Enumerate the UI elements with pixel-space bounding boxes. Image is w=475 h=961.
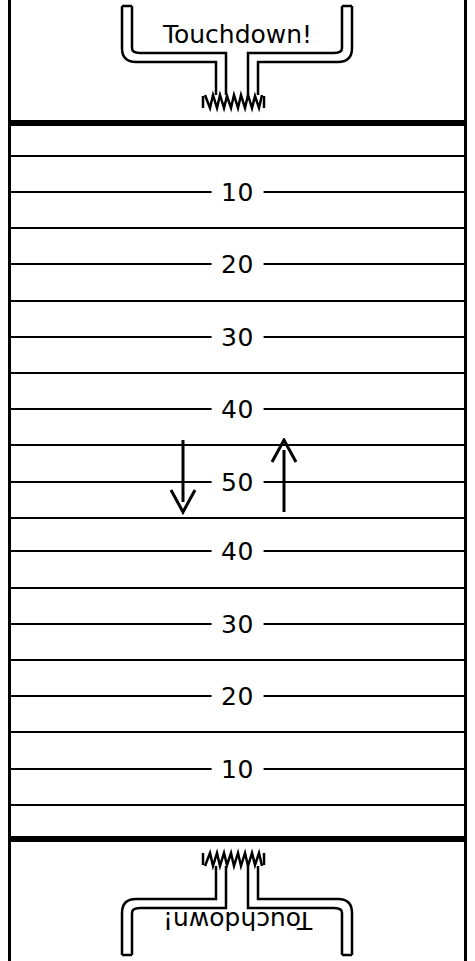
yard-number: 10 <box>211 180 264 205</box>
down-arrow-icon <box>165 438 201 516</box>
yard-number: 40 <box>211 539 264 564</box>
yard-number-midfield: 50 <box>211 470 264 495</box>
yard-line <box>8 731 467 733</box>
football-field-diagram: Touchdown! 10 20 30 40 50 40 30 20 10 <box>0 0 475 961</box>
yard-line <box>8 659 467 661</box>
top-goal-post-shape <box>0 0 475 115</box>
up-arrow-icon <box>266 438 302 516</box>
yard-number: 30 <box>211 612 264 637</box>
yard-number: 40 <box>211 397 264 422</box>
yard-line <box>8 155 467 157</box>
yard-line <box>8 517 467 519</box>
yard-number: 20 <box>211 252 264 277</box>
top-endzone-label: Touchdown! <box>0 20 475 49</box>
top-goal-post: Touchdown! <box>0 0 475 110</box>
yard-number: 20 <box>211 684 264 709</box>
yard-line <box>8 804 467 806</box>
top-goal-line <box>8 120 467 126</box>
yard-line <box>8 372 467 374</box>
yard-line <box>8 227 467 229</box>
yard-line <box>8 444 467 446</box>
bottom-goal-post: Touchdown! <box>0 846 475 956</box>
yard-number: 10 <box>211 757 264 782</box>
bottom-goal-line <box>8 836 467 842</box>
yard-line <box>8 587 467 589</box>
yard-number: 30 <box>211 325 264 350</box>
bottom-endzone-label: Touchdown! <box>0 906 475 935</box>
yard-line <box>8 300 467 302</box>
bottom-goal-post-shape <box>0 846 475 961</box>
